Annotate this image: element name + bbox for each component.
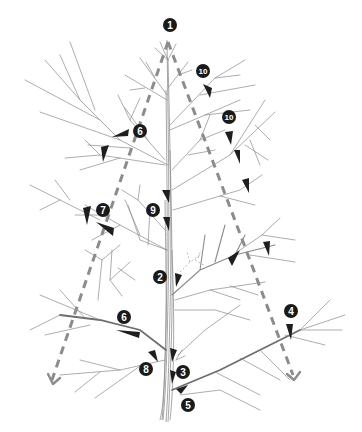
svg-text:1: 1 <box>167 20 173 31</box>
cut-marker-7a <box>83 206 91 225</box>
guide-right-line <box>168 42 293 375</box>
badge-1: 1 <box>163 18 177 32</box>
badge-9: 9 <box>146 203 160 217</box>
badge-4: 4 <box>284 304 298 318</box>
pruning-diagram: 1 10 10 6 7 9 2 4 <box>0 0 362 432</box>
badge-8: 8 <box>139 362 153 376</box>
cut-marker-10c <box>234 150 240 164</box>
svg-text:7: 7 <box>100 205 106 216</box>
badge-6b: 6 <box>117 310 131 324</box>
svg-text:3: 3 <box>180 367 186 378</box>
svg-text:10: 10 <box>225 113 234 122</box>
callout-badges: 1 10 10 6 7 9 2 4 <box>96 18 298 412</box>
cut-marker-7b <box>96 222 114 236</box>
badge-10b: 10 <box>222 110 236 124</box>
cut-marker-10b <box>225 131 233 145</box>
svg-text:6: 6 <box>121 312 127 323</box>
svg-text:10: 10 <box>199 67 208 76</box>
svg-text:6: 6 <box>137 126 143 137</box>
svg-text:5: 5 <box>185 400 191 411</box>
cut-marker-6a <box>112 129 129 137</box>
cut-marker-10d <box>242 178 249 193</box>
badge-3: 3 <box>176 365 190 379</box>
cut-marker-6a-lower <box>101 145 109 162</box>
badge-10a: 10 <box>196 64 210 78</box>
svg-text:2: 2 <box>157 272 163 283</box>
badge-2: 2 <box>153 270 167 284</box>
cut-marker-branch-right <box>228 250 240 266</box>
badge-7: 7 <box>96 203 110 217</box>
cut-marker-6b <box>116 330 140 338</box>
badge-5: 5 <box>181 398 195 412</box>
cut-marker-9a <box>162 190 170 203</box>
tree-branches <box>25 42 345 410</box>
cut-marker-2 <box>175 273 182 287</box>
cut-marker-10a <box>203 84 212 98</box>
cut-markers <box>83 84 293 394</box>
svg-text:8: 8 <box>143 364 149 375</box>
badge-6a: 6 <box>133 124 147 138</box>
cut-marker-4 <box>286 324 293 340</box>
svg-text:4: 4 <box>288 306 294 317</box>
cut-marker-8 <box>148 350 158 362</box>
cut-marker-right-guide <box>263 241 270 256</box>
svg-text:9: 9 <box>150 205 156 216</box>
